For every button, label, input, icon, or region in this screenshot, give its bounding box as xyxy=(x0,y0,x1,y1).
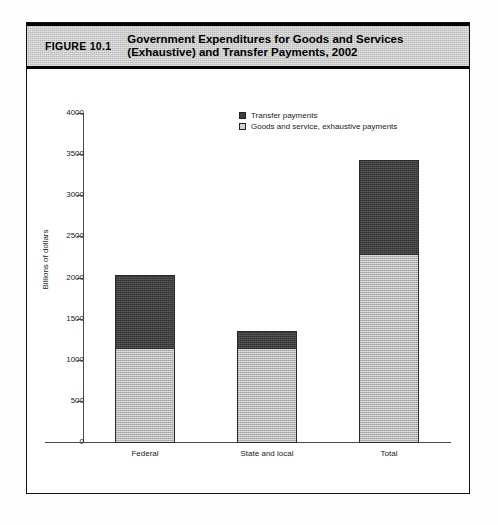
y-axis-tick: 1000 xyxy=(27,360,84,361)
figure-number: FIGURE 10.1 xyxy=(27,40,111,52)
y-axis-tick-mark xyxy=(77,195,84,196)
x-axis-category-label: Federal xyxy=(84,449,206,458)
figure-page: FIGURE 10.1 Government Expenditures for … xyxy=(0,0,498,525)
y-axis-tick: 1500 xyxy=(27,319,84,320)
y-axis-tick-mark xyxy=(77,236,84,237)
y-axis-tick-mark xyxy=(77,442,84,443)
bar-segment-goods-services[interactable] xyxy=(237,348,297,443)
y-axis-title: Billions of dollars xyxy=(41,195,50,325)
bar-group: Federal xyxy=(84,69,206,442)
y-axis-tick-mark xyxy=(77,360,84,361)
x-axis-category-label: State and local xyxy=(206,449,328,458)
stacked-bar[interactable] xyxy=(115,275,175,442)
figure-frame: FIGURE 10.1 Government Expenditures for … xyxy=(26,22,470,494)
figure-title: Government Expenditures for Goods and Se… xyxy=(111,33,403,60)
bar-group: State and local xyxy=(206,69,328,442)
bar-segment-transfer-payments[interactable] xyxy=(237,331,297,350)
x-axis-category-label: Total xyxy=(328,449,450,458)
figure-header-band: FIGURE 10.1 Government Expenditures for … xyxy=(27,23,469,69)
y-axis-tick: 2500 xyxy=(27,236,84,237)
bar-segment-goods-services[interactable] xyxy=(359,254,419,443)
y-axis-tick-mark xyxy=(77,319,84,320)
bar-segment-goods-services[interactable] xyxy=(115,348,175,443)
chart-plot-area: Transfer payments Goods and service, exh… xyxy=(27,69,469,493)
stacked-bar[interactable] xyxy=(359,160,419,442)
bar-segment-transfer-payments[interactable] xyxy=(359,160,419,255)
y-axis-tick-mark xyxy=(77,113,84,114)
y-axis-tick: 3000 xyxy=(27,195,84,196)
y-axis-tick: 4000 xyxy=(27,113,84,114)
y-axis-tick-mark xyxy=(77,401,84,402)
y-axis-tick: 2000 xyxy=(27,278,84,279)
y-axis-tick-mark xyxy=(77,278,84,279)
stacked-bar[interactable] xyxy=(237,331,297,442)
y-axis-tick-mark xyxy=(77,154,84,155)
bar-series-container: FederalState and localTotal xyxy=(84,69,469,442)
y-axis-tick: 0 xyxy=(27,442,84,443)
y-axis-tick: 500 xyxy=(27,401,84,402)
bar-segment-transfer-payments[interactable] xyxy=(115,275,175,349)
bar-group: Total xyxy=(328,69,450,442)
y-axis-tick: 3500 xyxy=(27,154,84,155)
